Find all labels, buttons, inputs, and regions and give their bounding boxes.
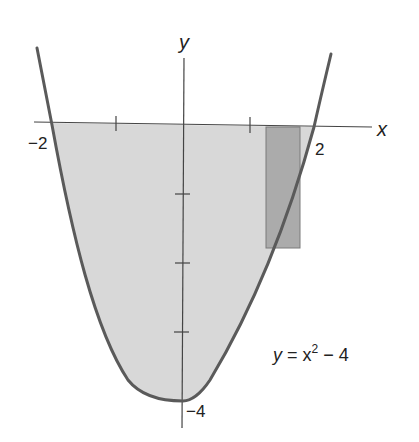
x-tick-label-2: 2 <box>315 140 324 159</box>
x-axis-label: x <box>376 118 388 140</box>
equation-eq: = x <box>282 345 312 365</box>
y-axis-label: y <box>177 31 190 53</box>
equation-label: y = x2 − 4 <box>271 342 349 365</box>
x-tick-label-neg2: −2 <box>28 134 47 153</box>
equation-rest: − 4 <box>318 345 349 365</box>
y-tick-label-neg4: −4 <box>186 402 205 421</box>
parabola-region-diagram: y x −2 2 −4 y = x2 − 4 <box>0 0 419 442</box>
